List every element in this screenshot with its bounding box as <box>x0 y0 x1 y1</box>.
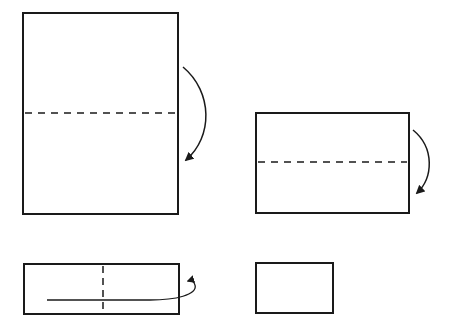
paper-final-rectangle <box>256 263 333 313</box>
paper-long-strip <box>24 264 179 314</box>
fold-down-arrow-icon <box>413 130 429 193</box>
paper-wide-rectangle <box>256 113 409 213</box>
step-3 <box>24 264 195 314</box>
step-1 <box>23 13 206 214</box>
step-2 <box>256 113 429 213</box>
folding-diagram <box>0 0 451 330</box>
step-4 <box>256 263 333 313</box>
fold-down-arrow-icon <box>183 67 206 160</box>
paper-tall-rectangle <box>23 13 178 214</box>
fold-behind-arrow-icon <box>47 281 195 300</box>
